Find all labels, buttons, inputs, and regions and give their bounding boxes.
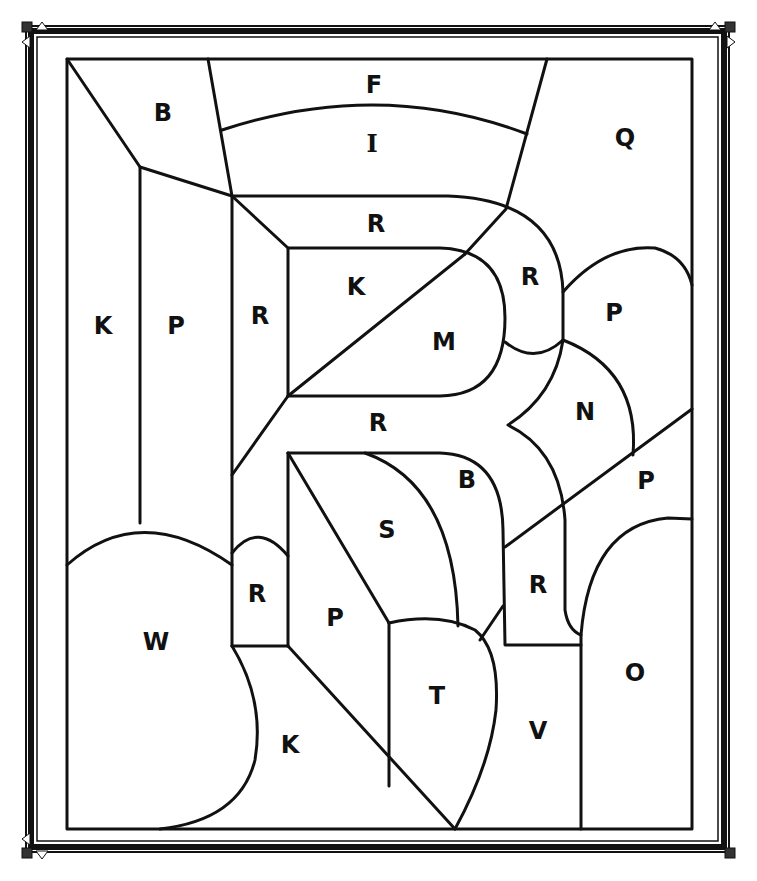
region-label-s-center: S [378,516,395,544]
region-label-p-right-low: P [637,467,655,495]
region-label-o-bottom: O [625,659,645,687]
region-label-b-top: B [154,99,172,127]
region-label-q-top: Q [615,124,635,152]
region-label-r-left-stem: R [251,302,269,330]
region-label-w-bottom: W [143,628,169,656]
region-label-r-mid-bar: R [369,409,387,437]
region-label-k-bottom: K [281,731,301,759]
coloring-artwork: B F I Q R K P R K M R P N R P S B R R P … [0,0,757,881]
region-label-p-right: P [605,299,623,327]
region-label-b-center: B [458,466,476,494]
region-labels: B F I Q R K P R K M R P N R P S B R R P … [94,71,655,759]
region-label-n-right: N [575,398,595,426]
coloring-page: B F I Q R K P R K M R P N R P S B R R P … [0,0,757,881]
region-label-v-bottom: V [529,717,548,745]
region-label-r-leg: R [529,571,547,599]
region-label-k-inner: K [347,273,367,301]
region-label-r-bowl: R [521,263,539,291]
region-label-r-top-bar: R [367,210,385,238]
region-label-m-inner: M [432,328,456,356]
region-label-p-center: P [326,604,344,632]
region-label-k-left: K [94,312,114,340]
region-lines [67,59,692,829]
region-label-i-top: I [366,129,377,158]
region-label-f-top: F [366,71,382,99]
region-label-p-left: P [167,312,185,340]
region-label-r-small: R [248,580,266,608]
region-label-t-bottom: T [429,682,446,710]
